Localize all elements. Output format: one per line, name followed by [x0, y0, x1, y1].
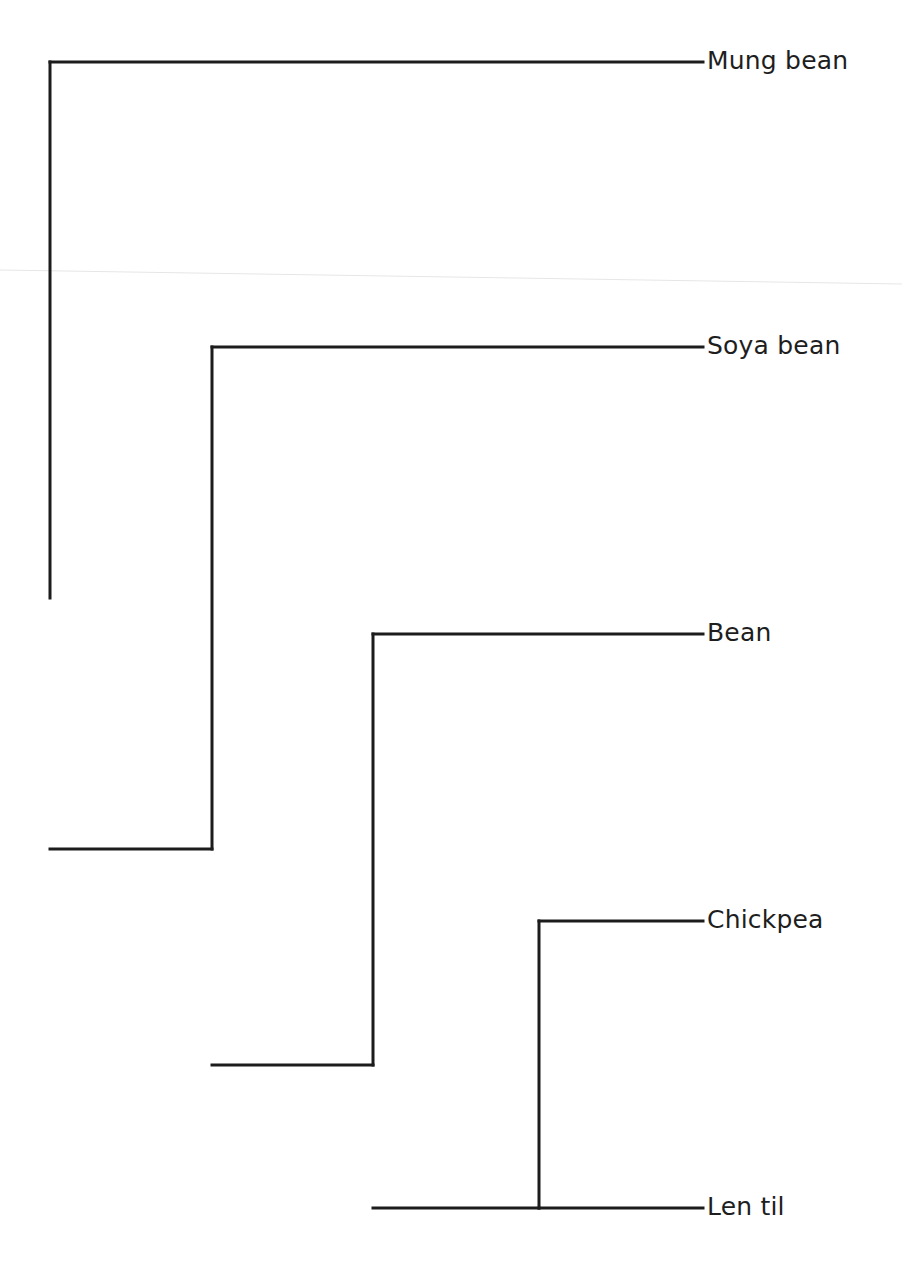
leaf-label-mung-bean: Mung bean: [707, 48, 848, 73]
branch-lines: [50, 62, 703, 1208]
leaf-label-soya-bean: Soya bean: [707, 333, 840, 358]
leaf-label-chickpea: Chickpea: [707, 907, 824, 932]
leaf-label-lentil: Len til: [707, 1194, 785, 1219]
leaf-label-bean: Bean: [707, 620, 772, 645]
scan-artifact-line: [0, 270, 902, 284]
